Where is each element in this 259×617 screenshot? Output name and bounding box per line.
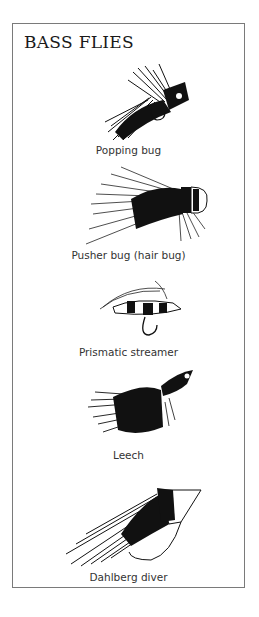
- fly-caption: Popping bug: [13, 144, 244, 156]
- bass-flies-panel: BASS FLIES Popping bug Pusher bug (h: [12, 23, 245, 588]
- fly-caption: Leech: [13, 449, 244, 461]
- leech-illustration-icon: [83, 362, 213, 444]
- popping-bug-illustration-icon: [93, 52, 213, 144]
- pusher-bug-illustration-icon: [81, 159, 221, 249]
- fly-caption: Prismatic streamer: [13, 346, 244, 358]
- prismatic-streamer-illustration-icon: [95, 279, 195, 341]
- fly-caption: Dahlberg diver: [13, 571, 244, 583]
- fly-caption: Pusher bug (hair bug): [13, 249, 244, 261]
- dahlberg-diver-illustration-icon: [61, 474, 221, 570]
- panel-title: BASS FLIES: [24, 32, 134, 52]
